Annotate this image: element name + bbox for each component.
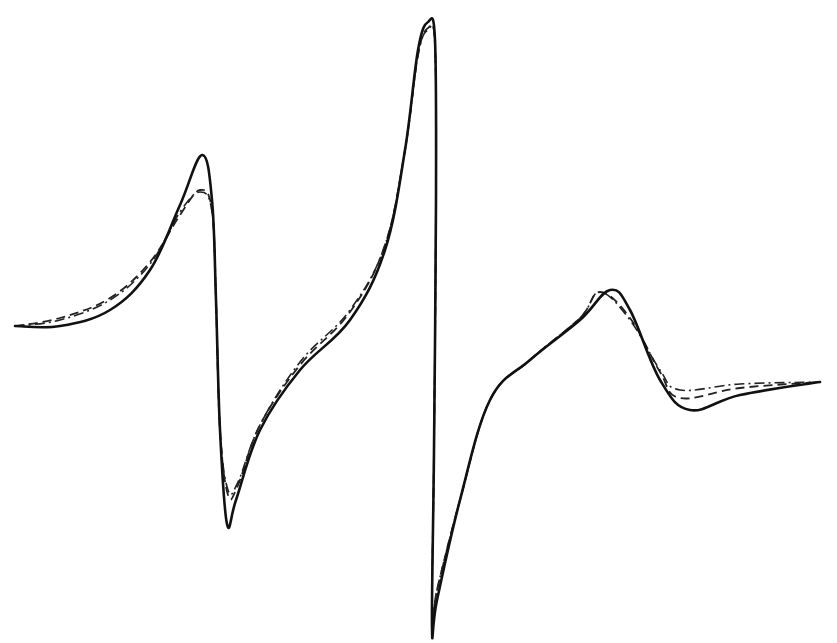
spectrum-chart [0,0,837,643]
dashed-trace [15,24,820,629]
solid-trace [15,18,820,638]
dash-dot-trace [15,25,820,629]
